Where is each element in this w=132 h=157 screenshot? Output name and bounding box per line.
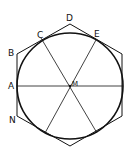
label-D: D bbox=[66, 13, 73, 23]
center-point-M bbox=[69, 85, 71, 87]
label-N: N bbox=[9, 115, 16, 125]
hexagon-circle-diagram: D C E B A M N bbox=[0, 0, 132, 157]
label-C: C bbox=[37, 30, 43, 40]
label-E: E bbox=[94, 29, 100, 39]
label-A: A bbox=[8, 81, 15, 91]
label-M: M bbox=[72, 80, 78, 88]
label-B: B bbox=[8, 48, 14, 58]
